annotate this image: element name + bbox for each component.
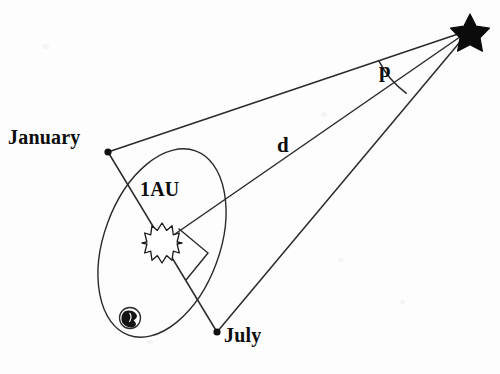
parallax-angle-p-label: p — [379, 58, 391, 83]
distance-d-label: d — [277, 133, 289, 158]
sun-starburst-icon — [142, 223, 182, 263]
baseline-1au-label: 1AU — [140, 178, 180, 201]
parallax-diagram-figure: January July 1AU d p — [0, 0, 500, 374]
january-sightline — [108, 30, 470, 152]
july-position-marker — [213, 328, 220, 335]
july-sightline — [217, 30, 470, 332]
diagram-canvas — [0, 0, 500, 374]
july-label: July — [224, 324, 261, 347]
january-label: January — [8, 126, 81, 149]
sun-sightline-d — [162, 30, 470, 243]
earth-globe-icon — [120, 308, 141, 329]
january-position-marker — [104, 148, 111, 155]
